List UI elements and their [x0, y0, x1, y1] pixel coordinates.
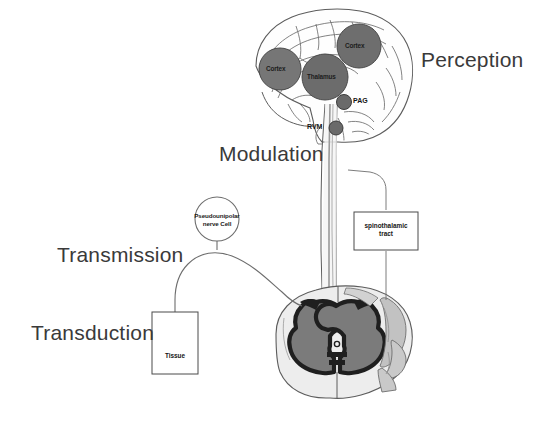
- stage-label-perception: Perception: [421, 48, 523, 72]
- pag-label: PAG: [353, 97, 368, 104]
- rvm-label: RVM: [307, 123, 322, 130]
- rvm-node: [329, 121, 343, 135]
- tissue-label: Tissue: [152, 352, 198, 360]
- pag-node: [337, 95, 352, 110]
- cortex-left-label: Cortex: [266, 65, 285, 72]
- spinal-cord-cross-section: [276, 286, 412, 398]
- nerve-cell-line1: Pseudounipolar: [194, 212, 239, 219]
- nerve-cell-callout: Pseudounipolar nerve Cell: [186, 212, 248, 228]
- stage-label-transduction: Transduction: [31, 321, 154, 345]
- stage-label-transmission: Transmission: [57, 243, 183, 267]
- nerve-cell-line2: nerve Cell: [203, 220, 232, 227]
- stage-label-modulation: Modulation: [219, 142, 324, 166]
- thalamus-label: Thalamus: [307, 73, 336, 80]
- pain-pathway-figure: Perception Modulation Transmission Trans…: [0, 0, 553, 423]
- spinothalamic-tract-callout: spinothalamic tract: [354, 222, 418, 239]
- spinothalamic-tract-line2: tract: [379, 230, 393, 237]
- tissue-box: [152, 312, 198, 374]
- cortex-right-label: Cortex: [345, 42, 364, 49]
- spinothalamic-tract-line1: spinothalamic: [365, 222, 408, 229]
